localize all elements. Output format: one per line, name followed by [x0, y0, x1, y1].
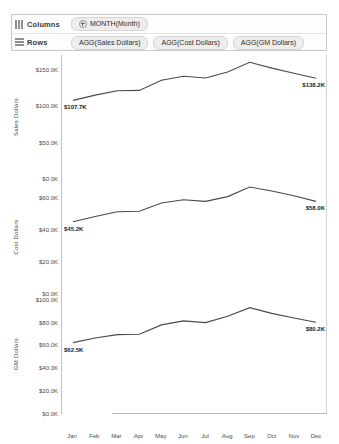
- chart-panel-cost: Cost Dollars $0.0K$20.0K$40.0K$60.0K $45…: [11, 179, 327, 294]
- pill-month[interactable]: MONTH(Month): [71, 17, 148, 31]
- series-line-cost: [73, 187, 316, 222]
- panel-right-rule: [326, 55, 327, 179]
- plot-area-gm: $62.5K$80.2K: [61, 294, 327, 414]
- pill-sales-dollars[interactable]: AGG(Sales Dollars): [71, 36, 148, 50]
- columns-shelf-label: Columns: [27, 20, 71, 29]
- x-tick-mar: Mar: [105, 433, 127, 444]
- y-tick-label: $100.0K: [36, 103, 58, 109]
- data-label: $62.5K: [64, 347, 83, 353]
- x-tick-dec: Dec: [305, 433, 327, 444]
- x-tick-jul: Jul: [194, 433, 216, 444]
- x-axis-rule: [112, 413, 327, 414]
- y-tick-label: $80.0K: [39, 320, 58, 326]
- y-axis-title-cost: Cost Dollars: [11, 179, 21, 294]
- y-axis-title-gm: GM Dollars: [11, 294, 21, 414]
- chart-panel-sales: Sales Dollars $0.0K$50.0K$100.0K$150.0K …: [11, 55, 327, 179]
- x-tick-sep: Sep: [238, 433, 260, 444]
- y-tick-label: $40.0K: [39, 227, 58, 233]
- series-line-sales: [73, 62, 316, 100]
- x-axis-month-labels: JanFebMarAprMayJunJulAugSepOctNovDec: [61, 433, 327, 444]
- series-line-gm: [73, 308, 316, 343]
- x-tick-may: May: [150, 433, 172, 444]
- line-chart-sales: [62, 55, 327, 179]
- data-label: $58.0K: [306, 205, 325, 211]
- y-axis-ticks-gm: $0.0K$20.0K$40.0K$60.0K$80.0K$100.0K: [21, 294, 61, 414]
- x-tick-jun: Jun: [172, 433, 194, 444]
- x-tick-nov: Nov: [283, 433, 305, 444]
- panel-right-rule: [326, 294, 327, 414]
- y-tick-label: $150.0K: [36, 67, 58, 73]
- rows-shelf-label: Rows: [27, 38, 71, 47]
- line-chart-gm: [62, 294, 327, 414]
- y-tick-label: $60.0K: [39, 195, 58, 201]
- data-label: $138.2K: [302, 82, 325, 88]
- columns-icon: [15, 20, 24, 29]
- x-tick-jan: Jan: [61, 433, 83, 444]
- y-tick-label: $50.0K: [39, 140, 58, 146]
- x-tick-apr: Apr: [128, 433, 150, 444]
- y-tick-label: $20.0K: [39, 388, 58, 394]
- y-tick-label: $0.0K: [42, 411, 58, 417]
- y-tick-label: $100.0K: [36, 297, 58, 303]
- columns-shelf[interactable]: Columns MONTH(Month): [12, 15, 326, 33]
- data-label: $107.7K: [64, 104, 87, 110]
- pill-gm-dollars[interactable]: AGG(GM Dollars): [233, 36, 304, 50]
- y-tick-label: $60.0K: [39, 342, 58, 348]
- panel-right-rule: [326, 179, 327, 294]
- y-axis-title-sales: Sales Dollars: [11, 55, 21, 179]
- rows-shelf[interactable]: Rows AGG(Sales Dollars) AGG(Cost Dollars…: [12, 33, 326, 51]
- y-axis-ticks-sales: $0.0K$50.0K$100.0K$150.0K: [21, 55, 61, 179]
- x-tick-feb: Feb: [83, 433, 105, 444]
- chart-panel-gm: GM Dollars $0.0K$20.0K$40.0K$60.0K$80.0K…: [11, 294, 327, 414]
- y-axis-ticks-cost: $0.0K$20.0K$40.0K$60.0K: [21, 179, 61, 294]
- x-tick-aug: Aug: [216, 433, 238, 444]
- y-tick-label: $20.0K: [39, 259, 58, 265]
- plot-area-cost: $45.2K$58.0K: [61, 179, 327, 294]
- visualization-area: Sales Dollars $0.0K$50.0K$100.0K$150.0K …: [11, 55, 327, 433]
- rows-icon: [15, 38, 24, 47]
- pill-month-label: MONTH(Month): [90, 18, 140, 30]
- x-tick-oct: Oct: [261, 433, 283, 444]
- data-label: $45.2K: [64, 226, 83, 232]
- plot-area-sales: $107.7K$138.2K: [61, 55, 327, 179]
- y-tick-label: $40.0K: [39, 365, 58, 371]
- pill-cost-dollars[interactable]: AGG(Cost Dollars): [153, 36, 227, 50]
- shelf-container: Columns MONTH(Month) Rows AGG(Sales Doll…: [11, 14, 327, 51]
- data-label: $80.2K: [306, 326, 325, 332]
- expand-plus-icon[interactable]: [79, 20, 87, 28]
- tableau-worksheet: Columns MONTH(Month) Rows AGG(Sales Doll…: [0, 0, 339, 444]
- line-chart-cost: [62, 179, 327, 294]
